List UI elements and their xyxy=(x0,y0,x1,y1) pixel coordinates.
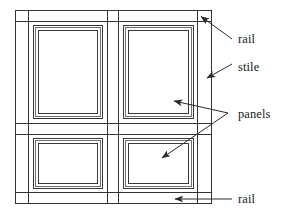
panel-lower-left xyxy=(34,139,103,189)
label-stile: stile xyxy=(238,60,260,74)
door-elevation-drawing: rail stile panels rail xyxy=(0,0,283,223)
panel-upper-right xyxy=(124,26,194,119)
panel-upper-left xyxy=(34,26,103,119)
label-rail-bottom: rail xyxy=(238,192,255,206)
door-diagram: rail stile panels rail xyxy=(0,0,283,223)
label-panels: panels xyxy=(238,107,271,121)
panel-lower-right xyxy=(124,139,194,189)
door-assembly xyxy=(16,11,212,204)
diagram-labels: rail stile panels rail xyxy=(238,32,271,206)
label-rail-top: rail xyxy=(238,32,255,46)
